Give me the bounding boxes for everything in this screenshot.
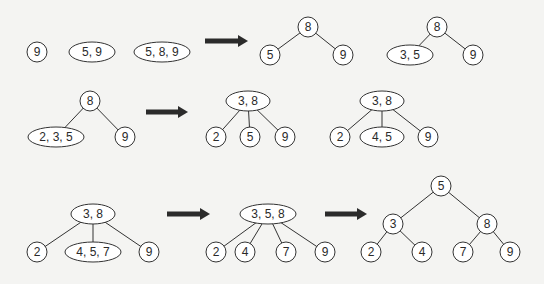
tree-step4: 82, 3, 59	[28, 91, 135, 147]
tree-node: 9	[418, 127, 438, 147]
node-label: 5	[267, 48, 274, 62]
node-label: 3, 8	[372, 94, 392, 108]
tree-node: 8	[298, 17, 318, 37]
node-label: 5, 9	[82, 45, 102, 59]
node-label: 3, 5	[400, 48, 420, 62]
node-label: 2	[213, 245, 220, 259]
tree-node: 9	[500, 242, 520, 262]
tree-step8: 3, 5, 82479	[206, 204, 335, 262]
transition-arrow-icon	[146, 106, 188, 118]
node-label: 3, 8	[83, 207, 103, 221]
tree-node: 5	[240, 127, 260, 147]
node-label: 3, 8	[238, 94, 258, 108]
tree-node: 9	[333, 45, 353, 65]
node-label: 9	[340, 48, 347, 62]
node-label: 2	[337, 130, 344, 144]
node-label: 9	[122, 130, 129, 144]
tree-insertion-diagram: 95, 95, 8, 985983, 5982, 3, 593, 82593, …	[0, 0, 544, 284]
node-label: 8	[87, 94, 94, 108]
node-label: 5	[247, 130, 254, 144]
tree-node: 2	[361, 242, 381, 262]
node-label: 2	[34, 245, 41, 259]
node-label: 4	[419, 245, 426, 259]
tree-node: 9	[275, 127, 295, 147]
transition-arrow-icon	[167, 208, 210, 220]
diagram-canvas: 95, 95, 8, 985983, 5982, 3, 593, 82593, …	[0, 0, 544, 284]
node-label: 2, 3, 5	[39, 130, 73, 144]
node-label: 2	[213, 130, 220, 144]
tree-node: 9	[27, 42, 47, 62]
tree-node: 7	[453, 242, 473, 262]
tree-node: 5	[431, 176, 451, 196]
tree-node: 2	[27, 242, 47, 262]
node-label: 9	[507, 245, 514, 259]
node-label: 8	[434, 20, 441, 34]
node-label: 4, 5	[372, 130, 392, 144]
tree-node: 5, 8, 9	[134, 42, 190, 62]
node-label: 9	[146, 245, 153, 259]
node-label: 5, 8, 9	[145, 45, 179, 59]
node-label: 8	[305, 20, 312, 34]
tree-node: 3, 8	[226, 91, 270, 111]
transition-arrow-icon	[205, 35, 248, 47]
node-label: 8	[484, 217, 491, 231]
tree-node: 2	[330, 127, 350, 147]
tree-node: 9	[463, 45, 483, 65]
tree-node: 5, 9	[69, 42, 115, 62]
node-label: 9	[425, 130, 432, 144]
tree-node: 7	[276, 242, 296, 262]
tree-node: 9	[115, 127, 135, 147]
node-label: 4	[242, 245, 249, 259]
tree-step2: 859	[260, 17, 353, 65]
node-label: 7	[283, 245, 290, 259]
tree-node: 4	[235, 242, 255, 262]
node-label: 4, 5, 7	[76, 245, 110, 259]
tree-node: 2, 3, 5	[28, 127, 84, 147]
tree-step5: 3, 8259	[206, 91, 295, 147]
node-label: 9	[34, 45, 41, 59]
tree-node: 3, 5	[387, 45, 433, 65]
tree-node: 8	[427, 17, 447, 37]
tree-node: 5	[260, 45, 280, 65]
tree-step9: 5382479	[361, 176, 520, 262]
tree-step6: 3, 824, 59	[330, 91, 438, 147]
tree-node: 9	[315, 242, 335, 262]
tree-node: 9	[139, 242, 159, 262]
tree-node: 4, 5, 7	[65, 242, 121, 262]
tree-node: 3, 5, 8	[240, 204, 296, 224]
node-label: 9	[470, 48, 477, 62]
tree-node: 2	[206, 242, 226, 262]
tree-node: 8	[477, 214, 497, 234]
tree-node: 3, 8	[360, 91, 404, 111]
tree-step1: 95, 95, 8, 9	[27, 42, 190, 62]
tree-node: 4	[412, 242, 432, 262]
node-label: 9	[282, 130, 289, 144]
tree-step3: 83, 59	[387, 17, 483, 65]
node-label: 5	[438, 179, 445, 193]
node-label: 3, 5, 8	[251, 207, 285, 221]
tree-node: 4, 5	[360, 127, 404, 147]
node-label: 7	[460, 245, 467, 259]
tree-node: 3	[383, 214, 403, 234]
transition-arrow-icon	[325, 208, 367, 220]
tree-node: 8	[80, 91, 100, 111]
tree-node: 2	[206, 127, 226, 147]
tree-node: 3, 8	[71, 204, 115, 224]
arrows-layer	[146, 35, 367, 220]
node-label: 3	[390, 217, 397, 231]
node-label: 2	[368, 245, 375, 259]
node-label: 9	[322, 245, 329, 259]
